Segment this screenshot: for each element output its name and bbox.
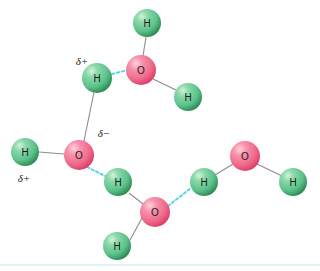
hydrogen-atom[interactable]: H [190, 168, 218, 196]
covalent-bond [39, 152, 64, 154]
oxygen-atom[interactable]: O [126, 55, 156, 85]
covalent-bond [143, 37, 146, 56]
covalent-bond [84, 92, 94, 141]
water-hydrogen-bonding-diagram: H H O H H O [0, 0, 320, 271]
hydrogen-atom[interactable]: H [82, 63, 112, 93]
hydrogen-bond [168, 188, 191, 206]
hydrogen-bond [112, 70, 128, 74]
hydrogen-atom[interactable]: H [279, 168, 307, 196]
delta-minus-label: δ− [98, 127, 111, 139]
covalent-bond [257, 164, 282, 176]
right-water-molecule: H H O [190, 141, 307, 196]
oxygen-atom[interactable]: O [230, 141, 260, 171]
hydrogen-bond [87, 167, 107, 177]
hydrogen-atom[interactable]: H [174, 83, 202, 111]
covalent-bond [130, 218, 142, 240]
oxygen-atom[interactable]: O [140, 197, 170, 227]
top-water-molecule: H H O [126, 9, 202, 111]
covalent-bond [129, 193, 143, 204]
hydrogen-atom[interactable]: H [104, 168, 132, 196]
bottom-water-molecule: H H O [103, 168, 170, 260]
hydrogen-atom[interactable]: H [11, 138, 39, 166]
hydrogen-atom[interactable]: H [133, 9, 161, 37]
covalent-bond [153, 79, 176, 90]
delta-plus-label: δ+ [18, 172, 31, 184]
bottom-divider [0, 264, 320, 266]
hydrogen-atom[interactable]: H [103, 232, 131, 260]
oxygen-atom[interactable]: O [64, 140, 94, 170]
delta-plus-label: δ+ [76, 55, 89, 67]
diagram-canvas: H H O H H O [0, 0, 320, 271]
covalent-bond [215, 164, 233, 175]
